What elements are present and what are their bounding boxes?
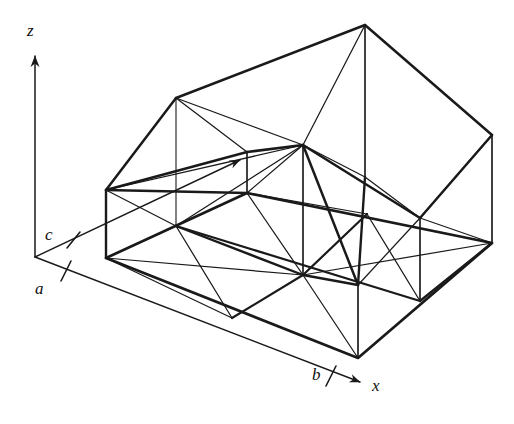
- ridge-peak-to-right: [365, 25, 492, 135]
- surface-ridge-edges: [106, 25, 492, 285]
- tick-group: [61, 232, 336, 386]
- facet-19: [420, 135, 492, 218]
- tick-label-b: b: [312, 366, 321, 383]
- axis-label-z: z: [27, 22, 34, 39]
- grid-col-line: [232, 275, 303, 318]
- base-outline: [106, 193, 492, 358]
- grid-col-upper: [247, 193, 367, 214]
- facet-1: [176, 98, 247, 152]
- tick-c: [67, 232, 80, 248]
- tick-label-c: c: [45, 226, 53, 243]
- axis-group: [35, 56, 360, 382]
- diag-2: [247, 193, 303, 275]
- ridge-peak-to-left: [176, 25, 365, 98]
- belt-5: [358, 177, 365, 285]
- belt-6: [420, 243, 492, 301]
- base-grid-lines: [176, 214, 420, 318]
- figure-canvas: z x a b c: [0, 0, 514, 424]
- belt-3: [176, 226, 303, 275]
- surface-mesh-drawing: [0, 0, 514, 424]
- axis-label-x: x: [372, 377, 380, 394]
- grid-row-line: [176, 226, 420, 301]
- facet-13: [358, 218, 420, 285]
- facet-7: [365, 177, 420, 218]
- facet-5: [303, 145, 365, 177]
- base-quad: [106, 193, 492, 358]
- facet-3: [303, 25, 365, 145]
- facet-2: [176, 98, 303, 145]
- diag-4: [303, 275, 358, 358]
- tick-label-a: a: [35, 280, 44, 297]
- facet-10: [176, 145, 303, 226]
- belt-2: [106, 190, 247, 193]
- facet-21: [106, 226, 176, 258]
